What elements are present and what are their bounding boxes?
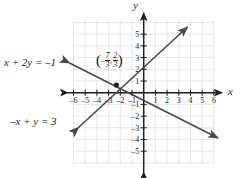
svg-text:5: 5 <box>135 30 139 39</box>
svg-text:4: 4 <box>135 42 139 51</box>
svg-text:4: 4 <box>189 96 193 105</box>
svg-text:1: 1 <box>135 77 139 86</box>
svg-text:6: 6 <box>212 96 216 105</box>
svg-text:–5: –5 <box>80 96 89 105</box>
svg-text:5: 5 <box>200 96 204 105</box>
svg-text:–1: –1 <box>130 100 139 109</box>
svg-text:–2: –2 <box>130 112 139 121</box>
intersection-point-marker <box>114 82 119 87</box>
intersection-point-label: (–73, 23) <box>96 52 123 69</box>
svg-text:3: 3 <box>177 96 181 105</box>
axes <box>68 13 222 172</box>
graph-figure: –6 –5 –4 –3 –2 –1 1 2 3 4 5 6 5 4 3 2 1 … <box>0 0 242 178</box>
svg-text:–2: –2 <box>115 96 124 105</box>
x-axis-label: x <box>228 85 233 97</box>
svg-text:–3: –3 <box>130 124 139 133</box>
svg-text:–6: –6 <box>69 96 78 105</box>
svg-text:2: 2 <box>165 96 169 105</box>
point-close-paren: ) <box>118 52 123 68</box>
equation-label-line2: –x + y = 3 <box>10 115 57 127</box>
svg-text:–5: –5 <box>130 147 139 156</box>
equation-label-line1: x + 2y = –1 <box>4 56 56 68</box>
y-axis-label: y <box>133 0 138 11</box>
svg-text:3: 3 <box>135 54 139 63</box>
coordinate-plane-svg: –6 –5 –4 –3 –2 –1 1 2 3 4 5 6 5 4 3 2 1 … <box>0 0 242 178</box>
svg-text:–4: –4 <box>92 96 101 105</box>
svg-text:1: 1 <box>153 96 157 105</box>
svg-text:–4: –4 <box>130 135 139 144</box>
